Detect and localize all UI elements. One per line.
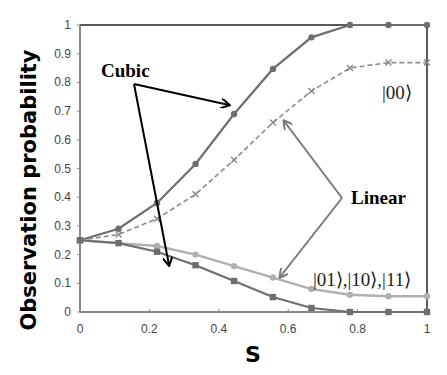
data-point	[270, 120, 276, 126]
y-tick-label: 0.9	[54, 47, 71, 61]
x-tick-label: 0	[77, 322, 84, 336]
data-point	[115, 226, 121, 232]
series-1	[77, 60, 430, 244]
data-point	[231, 278, 237, 284]
data-point	[77, 237, 83, 243]
data-point	[385, 22, 391, 28]
linear-arrow-upper	[284, 121, 342, 198]
y-tick-label: 0.4	[54, 190, 71, 204]
data-point	[154, 243, 160, 249]
y-tick-label: 0.5	[54, 162, 71, 176]
data-point	[231, 157, 237, 163]
data-point	[192, 262, 198, 268]
x-tick-label: 0.8	[349, 322, 366, 336]
y-tick-label: 0.2	[54, 248, 71, 262]
y-axis-ticks: 00.10.20.30.40.50.60.70.80.91	[54, 18, 80, 319]
annotation-ket-00: |00⟩	[382, 82, 412, 103]
x-tick-label: 0.4	[210, 322, 227, 336]
annotation-arrows	[134, 84, 342, 277]
annotation-linear: Linear	[351, 187, 406, 208]
x-tick-label: 0.6	[280, 322, 297, 336]
cubic-arrow-lower	[134, 84, 169, 265]
data-point	[193, 191, 199, 197]
data-point	[154, 249, 160, 255]
y-tick-label: 0.6	[54, 133, 71, 147]
y-tick-label: 1	[64, 18, 71, 32]
data-point	[270, 274, 276, 280]
annotation-cubic: Cubic	[101, 60, 150, 81]
data-point	[308, 305, 314, 311]
y-tick-label: 0.3	[54, 219, 71, 233]
y-tick-label: 0.7	[54, 104, 71, 118]
data-point	[424, 293, 430, 299]
data-point	[347, 292, 353, 298]
annotation-ket-others: |01⟩,|10⟩,|11⟩	[313, 269, 411, 290]
data-point	[231, 263, 237, 269]
data-point	[424, 22, 430, 28]
x-tick-label: 1	[424, 322, 431, 336]
series-0	[77, 22, 430, 244]
data-point	[424, 309, 430, 315]
data-point	[192, 161, 198, 167]
linear-arrow-lower	[280, 198, 342, 277]
cubic-arrow-upper	[134, 84, 229, 105]
y-tick-label: 0	[64, 305, 71, 319]
data-point	[270, 294, 276, 300]
data-point	[385, 309, 391, 315]
data-point	[192, 251, 198, 257]
data-point	[385, 293, 391, 299]
data-point	[115, 240, 121, 246]
data-point	[270, 66, 276, 72]
data-point	[347, 22, 353, 28]
series-line	[80, 63, 427, 241]
y-tick-label: 0.8	[54, 75, 71, 89]
y-axis-title: Observation probability	[17, 49, 41, 330]
x-axis-title: S	[245, 342, 261, 367]
chart: 00.10.20.30.40.50.60.70.80.91 00.20.40.6…	[0, 0, 447, 375]
x-tick-label: 0.2	[141, 322, 158, 336]
data-point	[231, 111, 237, 117]
y-tick-label: 0.1	[54, 276, 71, 290]
data-point	[308, 88, 314, 94]
data-point	[308, 34, 314, 40]
data-point	[347, 309, 353, 315]
